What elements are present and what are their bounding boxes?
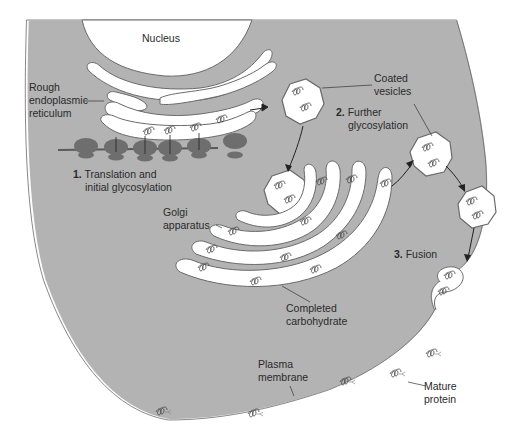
step1-line1: 1. Translation and	[73, 168, 172, 181]
step1-label: 1. Translation and initial glycosylation	[73, 168, 172, 194]
rough-er-label: Rough endoplasmic reticulum	[29, 81, 88, 120]
golgi-line2: apparatus	[163, 219, 210, 232]
step2-line2: glycosylation	[336, 119, 408, 132]
fusion-site	[434, 267, 463, 310]
completed-carbohydrate-line1: Completed	[286, 302, 347, 315]
mature-protein-line2: protein	[424, 393, 457, 406]
golgi-line1: Golgi	[163, 206, 210, 219]
plasma-membrane-line2: membrane	[258, 371, 308, 384]
step2-text: Further	[348, 106, 382, 118]
plasma-membrane-label: Plasma membrane	[258, 358, 308, 384]
step1-text: Translation and	[85, 168, 157, 180]
step1-number: 1.	[73, 168, 82, 180]
nucleus-label: Nucleus	[142, 32, 180, 45]
step3-number: 3.	[394, 248, 403, 260]
step2-label: 2. Further glycosylation	[336, 106, 408, 132]
step3-text: Fusion	[406, 248, 438, 260]
coated-vesicles-line1: Coated	[374, 72, 411, 85]
rough-er-label-line1: Rough	[29, 81, 88, 94]
mature-protein-line1: Mature	[424, 380, 457, 393]
step2-number: 2.	[336, 106, 345, 118]
coated-vesicles-line2: vesicles	[374, 85, 411, 98]
completed-carbohydrate-line2: carbohydrate	[286, 315, 347, 328]
step3-label: 3. Fusion	[394, 248, 437, 261]
plasma-membrane-line1: Plasma	[258, 358, 308, 371]
step1-line2: initial glycosylation	[73, 181, 172, 194]
step2-line1: 2. Further	[336, 106, 408, 119]
completed-carbohydrate-label: Completed carbohydrate	[286, 302, 347, 328]
coated-vesicles-label: Coated vesicles	[374, 72, 411, 98]
rough-er-label-line3: reticulum	[29, 107, 88, 120]
rough-er-label-line2: endoplasmic	[29, 94, 88, 107]
golgi-label: Golgi apparatus	[163, 206, 210, 232]
mature-protein-label: Mature protein	[424, 380, 457, 406]
